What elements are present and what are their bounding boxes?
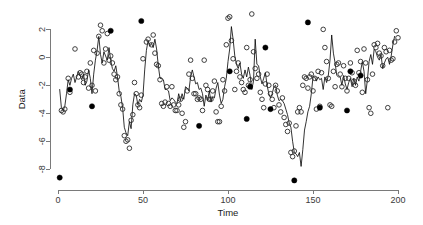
data-point-open	[122, 133, 127, 138]
data-point-open	[306, 86, 311, 91]
data-point-filled	[108, 28, 113, 33]
data-point-filled	[317, 105, 322, 110]
data-point-open	[367, 105, 372, 110]
y-tick-label: -8	[37, 165, 47, 173]
series-line-group	[60, 27, 395, 167]
data-point-open	[127, 146, 132, 151]
x-axis-title: Time	[218, 207, 239, 218]
y-axis-title: Data	[17, 89, 28, 110]
data-point-open	[258, 90, 263, 95]
data-point-open	[188, 58, 193, 63]
data-point-open	[221, 77, 226, 82]
timeseries-plot: 20-2-4-6-8050100150200TimeData	[0, 0, 423, 225]
data-point-open	[333, 84, 338, 89]
data-point-filled	[197, 123, 202, 128]
data-point-open	[93, 89, 98, 94]
data-point-open	[285, 129, 290, 134]
data-point-filled	[57, 175, 62, 180]
data-point-open	[260, 97, 265, 102]
data-point-filled	[139, 18, 144, 23]
data-point-open	[251, 49, 256, 54]
data-point-open	[253, 66, 258, 71]
data-point-open	[369, 111, 374, 116]
x-tick-label: 100	[220, 195, 235, 205]
data-point-open	[98, 23, 103, 28]
data-point-open	[370, 72, 375, 77]
data-point-filled	[244, 116, 249, 121]
data-point-open	[187, 72, 192, 77]
data-point-open	[151, 33, 156, 38]
data-point-open	[153, 51, 158, 56]
data-point-open	[278, 110, 283, 115]
x-tick-label: 50	[138, 195, 148, 205]
data-point-open	[234, 69, 239, 74]
data-point-open	[294, 124, 299, 129]
y-tick-label: 2	[37, 27, 47, 32]
data-point-open	[321, 27, 326, 32]
data-point-open	[210, 89, 215, 94]
x-tick-label: 0	[55, 195, 60, 205]
data-point-open	[250, 12, 255, 17]
y-tick-label: -2	[37, 81, 47, 89]
data-point-open	[100, 28, 105, 33]
data-point-open	[202, 58, 207, 63]
data-point-open	[233, 87, 238, 92]
data-point-open	[73, 47, 78, 52]
data-point-open	[355, 48, 360, 53]
data-point-open	[224, 42, 229, 47]
data-point-filled	[227, 69, 232, 74]
data-point-open	[141, 56, 146, 61]
data-point-open	[103, 47, 108, 52]
data-point-open	[277, 103, 282, 108]
data-point-open	[238, 75, 243, 80]
data-point-open	[214, 110, 219, 115]
data-point-open	[386, 105, 391, 110]
data-point-filled	[348, 69, 353, 74]
open-circle-markers-group	[59, 12, 400, 159]
data-point-filled	[344, 108, 349, 113]
data-point-open	[200, 108, 205, 113]
data-point-filled	[67, 87, 72, 92]
data-point-open	[244, 45, 249, 50]
data-point-open	[282, 115, 287, 120]
data-point-filled	[268, 106, 273, 111]
data-point-filled	[89, 104, 94, 109]
data-point-filled	[358, 73, 363, 78]
data-point-open	[392, 40, 397, 45]
data-point-open	[280, 96, 285, 101]
data-point-open	[275, 89, 280, 94]
y-tick-label: -6	[37, 137, 47, 145]
data-point-open	[261, 105, 266, 110]
axis-labels-group: 20-2-4-6-8050100150200TimeData	[17, 27, 406, 218]
x-tick-label: 150	[305, 195, 320, 205]
data-point-open	[324, 59, 329, 64]
y-tick-label: 0	[37, 55, 47, 60]
data-point-open	[165, 84, 170, 89]
data-point-filled	[248, 84, 253, 89]
data-point-open	[270, 97, 275, 102]
data-point-open	[348, 61, 353, 66]
data-point-open	[362, 47, 367, 52]
data-point-open	[212, 79, 217, 84]
data-point-open	[301, 83, 306, 88]
data-point-open	[132, 80, 137, 85]
data-point-open	[180, 111, 185, 116]
data-point-open	[170, 84, 175, 89]
data-point-open	[290, 154, 295, 159]
data-point-open	[131, 112, 136, 117]
data-point-open	[183, 119, 188, 124]
data-point-open	[110, 61, 115, 66]
data-point-open	[182, 125, 187, 130]
data-point-filled	[263, 45, 268, 50]
y-tick-label: -4	[37, 109, 47, 117]
data-point-open	[176, 103, 181, 108]
data-point-open	[363, 61, 368, 66]
data-point-open	[239, 80, 244, 85]
data-point-open	[338, 72, 343, 77]
data-point-open	[341, 63, 346, 68]
data-point-open	[394, 28, 399, 33]
data-point-open	[360, 90, 365, 95]
data-point-open	[219, 104, 224, 109]
x-tick-label: 200	[390, 195, 405, 205]
fitted-series-path	[60, 27, 395, 167]
